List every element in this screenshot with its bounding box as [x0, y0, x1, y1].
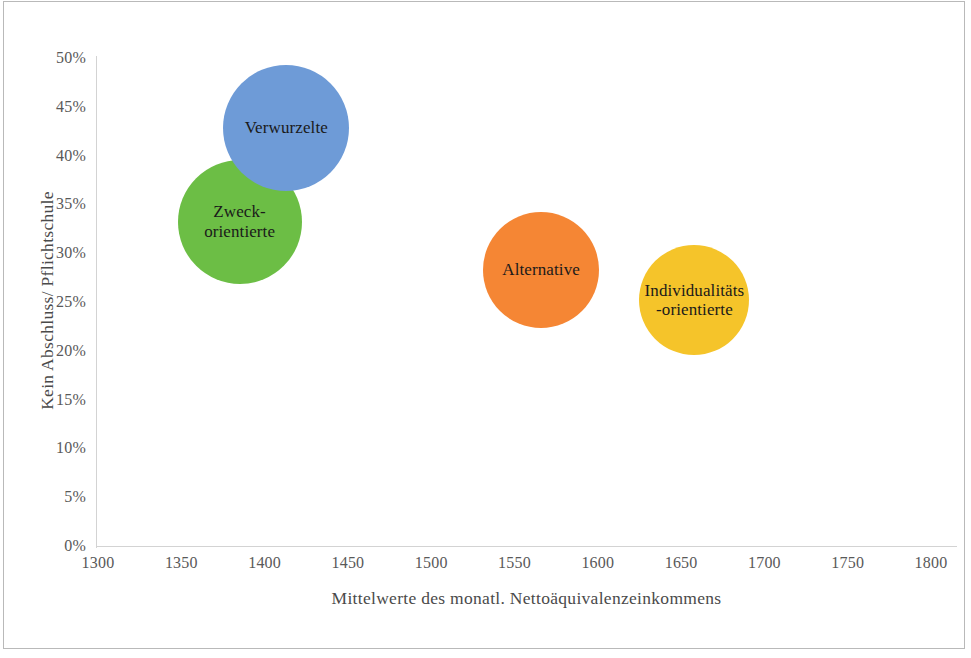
bubble-label: Individualitäts -orientierte	[641, 281, 749, 320]
y-axis-tick-label: 30%	[56, 244, 86, 262]
y-axis-tick-label: 35%	[56, 195, 86, 213]
bubble-marker[interactable]: Alternative	[483, 212, 599, 328]
y-axis-tick-label: 45%	[56, 98, 86, 116]
bubble-marker[interactable]: Individualitäts -orientierte	[639, 245, 749, 355]
y-axis-tick-label: 10%	[56, 439, 86, 457]
x-axis-tick-label: 1550	[498, 554, 531, 572]
x-axis-title: Mittelwerte des monatl. Nettoäquivalenze…	[96, 588, 957, 609]
bubble-label: Verwurzelte	[241, 118, 332, 138]
x-axis-tick-label: 1650	[665, 554, 698, 572]
x-axis-tick-label: 1800	[915, 554, 948, 572]
bubble-label: Alternative	[498, 260, 584, 280]
x-axis-tick-label: 1350	[165, 554, 198, 572]
x-axis-tick-label: 1700	[748, 554, 781, 572]
chart-page: 0%5%10%15%20%25%30%35%40%45%50% Kein Abs…	[0, 0, 971, 658]
x-axis-line	[96, 546, 957, 547]
y-axis-tick-label: 15%	[56, 391, 86, 409]
y-axis-title-wrapper: Kein Abschluss/ Pflichtschule	[22, 0, 46, 658]
y-axis-title: Kein Abschluss/ Pflichtschule	[37, 91, 58, 511]
bubble-label: Zweck- orientierte	[200, 202, 279, 241]
bubble-marker[interactable]: Verwurzelte	[223, 65, 349, 191]
x-axis-tick-label: 1500	[415, 554, 448, 572]
y-axis-tick-label: 50%	[56, 49, 86, 67]
y-axis-tick-label: 20%	[56, 342, 86, 360]
x-axis-tick-label: 1450	[331, 554, 364, 572]
y-axis-tick-label: 0%	[64, 537, 86, 555]
x-axis-tick-label: 1750	[831, 554, 864, 572]
y-axis-tick-label: 5%	[64, 488, 86, 506]
y-axis-tick-label: 40%	[56, 147, 86, 165]
x-axis-tick-label: 1400	[248, 554, 281, 572]
x-axis-tick-label: 1300	[82, 554, 115, 572]
y-axis-tick-label: 25%	[56, 293, 86, 311]
x-axis-tick-label: 1600	[581, 554, 614, 572]
